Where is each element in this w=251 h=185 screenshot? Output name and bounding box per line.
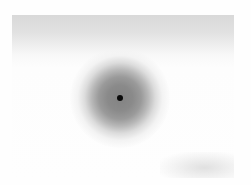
image-frame (0, 0, 251, 185)
gray-smudge (160, 152, 234, 178)
center-dot (117, 95, 123, 101)
